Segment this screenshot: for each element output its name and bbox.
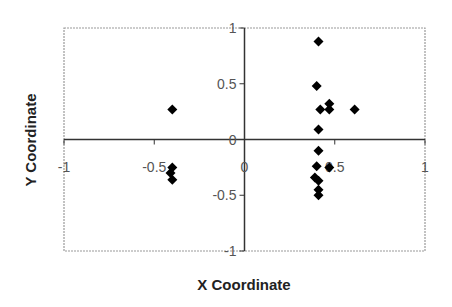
scatter-chart: -1-0.500.51-1-0.500.51 Y Coordinate X Co… [0, 0, 452, 307]
y-tick-label: 0.5 [217, 76, 237, 92]
x-tick-label: -0.5 [142, 159, 166, 175]
x-tick-label: 0 [241, 159, 249, 175]
y-axis-title: Y Coordinate [22, 93, 39, 186]
y-tick-label: -1 [224, 243, 237, 259]
x-tick-label: -1 [58, 159, 71, 175]
x-tick-label: 1 [421, 159, 429, 175]
y-tick-label: 0 [229, 132, 237, 148]
x-axis-title: X Coordinate [197, 276, 290, 293]
y-tick-label: -0.5 [212, 187, 236, 203]
y-tick-label: 1 [229, 20, 237, 36]
